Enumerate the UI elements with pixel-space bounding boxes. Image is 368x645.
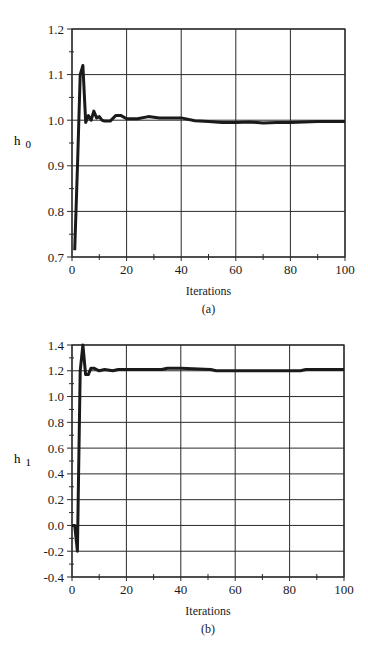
x-tick-label: 100 [335,262,355,277]
x-tick-label: 0 [69,582,76,597]
tick-labels: 0204060801000.70.80.91.01.11.2 [48,22,355,278]
axis-ticks [67,345,344,581]
x-tick-label: 40 [175,262,188,277]
figure: 0204060801000.70.80.91.01.11.2 Iteration… [0,0,368,645]
y-tick-label: -0.4 [43,570,64,585]
tick-labels: 020406080100-0.4-0.20.00.20.40.60.81.01.… [43,338,353,598]
x-tick-label: 80 [283,582,296,597]
y-axis-title-subscript: 1 [26,456,32,468]
x-tick-label: 20 [120,262,133,277]
y-axis-title: h 1 [14,449,31,468]
y-tick-label: 0.7 [48,250,65,265]
x-tick-label: 100 [334,582,354,597]
grid-lines [72,29,345,257]
y-tick-label: 0.2 [48,492,64,507]
x-tick-label: 20 [120,582,133,597]
y-tick-label: 0.8 [48,415,64,430]
y-tick-label: 1.0 [48,113,64,128]
y-axis-title-main: h [14,451,21,466]
y-tick-label: 0.0 [48,518,64,533]
x-axis-title: Iterations [186,284,232,298]
panel-caption: (b) [201,622,215,636]
y-tick-label: 0.6 [48,441,65,456]
x-axis-title: Iterations [185,604,231,618]
x-tick-label: 80 [284,262,297,277]
x-tick-label: 0 [69,262,76,277]
y-tick-label: 0.9 [48,158,64,173]
panel-caption: (a) [202,302,215,316]
y-tick-label: -0.2 [43,544,64,559]
line-series-h0 [75,66,345,251]
x-tick-label: 60 [229,262,242,277]
chart-panel-b: 020406080100-0.4-0.20.00.20.40.60.81.01.… [14,338,354,637]
y-tick-label: 0.8 [48,204,64,219]
x-tick-label: 40 [174,582,187,597]
y-tick-label: 1.2 [48,363,64,378]
y-axis-title-main: h [14,133,21,148]
x-tick-label: 60 [229,582,242,597]
y-tick-label: 1.1 [48,67,64,82]
chart-panel-a: 0204060801000.70.80.91.01.11.2 Iteration… [14,22,355,317]
y-tick-label: 1.2 [48,22,64,37]
axis-ticks [67,29,345,261]
y-axis-title: h 0 [14,131,32,150]
grid-lines [72,345,344,577]
y-tick-label: 0.4 [48,466,65,481]
y-axis-title-subscript: 0 [26,138,32,150]
y-tick-label: 1.0 [48,389,64,404]
y-tick-label: 1.4 [48,338,65,353]
